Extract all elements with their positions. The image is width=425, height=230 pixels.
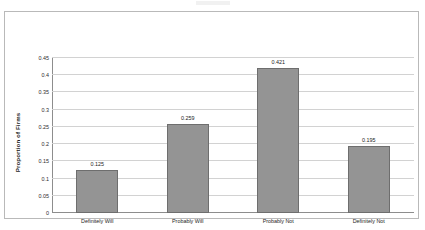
y-axis-title: Proportion of Firms [12, 96, 24, 188]
y-axis-tick-label: 0.1 [42, 176, 50, 182]
plot-area: 0.450.40.350.30.250.20.150.10.050 0.125D… [52, 58, 414, 213]
top-edge-artifact [196, 1, 230, 5]
bar-value-label: 0.259 [181, 115, 195, 121]
bar[interactable] [76, 170, 118, 213]
bar[interactable] [348, 146, 390, 213]
y-axis-tick-label: 0.45 [39, 55, 50, 61]
bar-group: 0.125Definitely Will [52, 58, 143, 213]
bar-group: 0.195Definitely Not [324, 58, 415, 213]
bar-group: 0.259Probably Will [143, 58, 234, 213]
y-axis-tick-label: 0.35 [39, 89, 50, 95]
bar-value-label: 0.125 [91, 161, 105, 167]
bar-value-label: 0.195 [362, 137, 376, 143]
x-axis-category-label: Probably Will [172, 218, 203, 224]
bar[interactable] [257, 68, 299, 213]
bar-value-label: 0.421 [272, 59, 286, 65]
y-axis-tick-label: 0.05 [39, 193, 50, 199]
y-axis-tick-label: 0.3 [42, 107, 50, 113]
x-axis-category-label: Definitely Will [81, 218, 113, 224]
x-axis-category-label: Definitely Not [353, 218, 385, 224]
bar-group: 0.421Probably Not [233, 58, 324, 213]
x-axis-category-label: Probably Not [263, 218, 294, 224]
bar-series: 0.125Definitely Will0.259Probably Will0.… [52, 58, 414, 213]
bar[interactable] [167, 124, 209, 213]
y-axis-tick-label: 0.15 [39, 158, 50, 164]
y-axis-tick-label: 0.4 [42, 72, 50, 78]
y-axis-title-label: Proportion of Firms [15, 112, 22, 172]
y-axis-tick-label: 0.2 [42, 141, 50, 147]
chart-frame: Proportion of Firms 0.450.40.350.30.250.… [4, 11, 419, 219]
y-axis-tick-label: 0 [46, 210, 49, 216]
y-axis-tick-label: 0.25 [39, 124, 50, 130]
